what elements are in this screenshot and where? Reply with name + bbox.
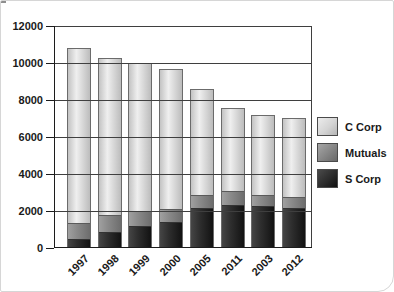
legend-swatch-c-corp-icon: [317, 117, 338, 136]
y-axis-label: 12000: [3, 21, 43, 32]
x-axis-label: 2005: [187, 252, 213, 278]
gridline-4000: [54, 174, 311, 175]
bar-segment-s-corp: [160, 222, 182, 247]
bar-segment-c-corp: [222, 109, 244, 191]
gridline-10000: [54, 63, 311, 64]
bar-2011: [221, 108, 245, 248]
gridline-8000: [54, 100, 311, 101]
y-tick-8000: [46, 100, 54, 101]
y-axis-label: 8000: [3, 95, 43, 106]
bar-2003: [251, 115, 275, 248]
legend: C Corp Mutuals S Corp: [317, 117, 387, 188]
bar-2000: [159, 69, 183, 248]
bar-segment-mutuals: [68, 223, 90, 239]
bar-segment-s-corp: [252, 206, 274, 247]
bar-segment-s-corp: [99, 232, 121, 247]
x-axis-label: 2012: [280, 252, 306, 278]
bar-segment-c-corp: [160, 70, 182, 209]
bar-1998: [98, 58, 122, 248]
legend-label-s-corp: S Corp: [345, 173, 381, 185]
bar-1997: [67, 48, 91, 248]
gridline-12000: [54, 26, 311, 27]
bar-1999: [128, 63, 152, 248]
bar-segment-mutuals: [191, 195, 213, 208]
y-tick-4000: [46, 174, 54, 175]
x-axis-line: [54, 247, 312, 248]
bar-segment-c-corp: [68, 49, 90, 223]
legend-swatch-s-corp-icon: [317, 169, 338, 188]
x-axis-label: 1999: [126, 252, 152, 278]
bar-segment-c-corp: [191, 90, 213, 195]
legend-swatch-mutuals-icon: [317, 143, 338, 162]
y-tick-0: [46, 248, 54, 249]
bar-segment-mutuals: [222, 191, 244, 205]
y-tick-6000: [46, 137, 54, 138]
y-axis-label: 10000: [3, 58, 43, 69]
bar-segment-s-corp: [283, 208, 305, 247]
bar-2005: [190, 89, 214, 248]
bar-segment-s-corp: [129, 226, 151, 247]
x-axis-label: 2003: [249, 252, 275, 278]
x-axis-label: 2000: [157, 252, 183, 278]
bar-segment-mutuals: [129, 211, 151, 226]
bar-segment-mutuals: [99, 215, 121, 232]
bar-segment-s-corp: [191, 208, 213, 247]
legend-label-c-corp: C Corp: [345, 121, 382, 133]
x-axis-label: 2011: [219, 252, 244, 277]
page-crop-mark: [1, 1, 6, 3]
plot-frame-right: [311, 26, 312, 248]
y-axis-label: 2000: [3, 206, 43, 217]
chart: 020004000600080001000012000 C Corp Mutua…: [0, 0, 394, 292]
x-axis-label: 1997: [65, 252, 91, 278]
x-axis-label: 1998: [95, 252, 121, 278]
y-axis-line: [54, 26, 55, 248]
bar-segment-s-corp: [68, 239, 90, 247]
y-axis-label: 4000: [3, 169, 43, 180]
y-axis-label: 0: [3, 243, 43, 254]
y-tick-10000: [46, 63, 54, 64]
y-axis-label: 6000: [3, 132, 43, 143]
bar-segment-c-corp: [283, 119, 305, 197]
legend-item-c-corp: C Corp: [317, 117, 387, 136]
gridline-6000: [54, 137, 311, 138]
y-tick-2000: [46, 211, 54, 212]
bar-segment-mutuals: [252, 195, 274, 206]
legend-item-s-corp: S Corp: [317, 169, 387, 188]
legend-item-mutuals: Mutuals: [317, 143, 387, 162]
gridline-2000: [54, 211, 311, 212]
legend-label-mutuals: Mutuals: [345, 147, 387, 159]
bar-segment-mutuals: [283, 197, 305, 208]
bar-segment-c-corp: [252, 116, 274, 195]
y-tick-12000: [46, 26, 54, 27]
